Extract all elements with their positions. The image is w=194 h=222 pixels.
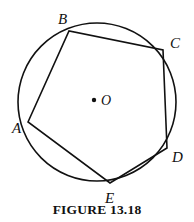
- center-label-O: O: [101, 93, 111, 108]
- inscribed-pentagon: [28, 31, 167, 183]
- figure-container: O A B C D E FIGURE 13.18: [0, 0, 194, 222]
- figure-caption: FIGURE 13.18: [0, 202, 194, 218]
- vertex-label-C: C: [170, 35, 181, 51]
- vertex-label-B: B: [58, 11, 67, 27]
- vertex-label-A: A: [11, 120, 22, 136]
- vertex-label-D: D: [171, 149, 183, 165]
- center-point-dot: [92, 98, 96, 102]
- geometry-diagram: O A B C D E: [0, 0, 194, 222]
